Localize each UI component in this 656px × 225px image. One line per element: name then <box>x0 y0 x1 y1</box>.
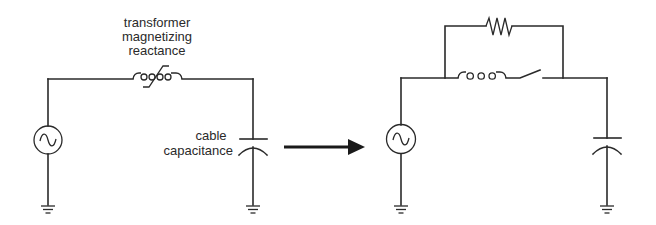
resistor-icon <box>486 18 512 35</box>
ground-icon <box>41 206 55 213</box>
wire-parallel-left <box>445 26 486 78</box>
ground-icon <box>246 206 260 213</box>
switch-icon <box>506 70 607 78</box>
capacitor-label-line2: capacitance <box>164 143 233 158</box>
inductor-icon <box>458 72 506 79</box>
capacitor-label-line1: cable <box>195 128 226 143</box>
ground-icon <box>600 206 614 213</box>
ground-icon <box>394 206 408 213</box>
circuit-diagram: transformer magnetizing reactance cable … <box>0 0 656 225</box>
inductor-label-line3: reactance <box>128 43 185 58</box>
left-circuit: transformer magnetizing reactance cable … <box>34 15 267 213</box>
nonlinear-inductor-icon <box>133 66 182 87</box>
ac-source-icon <box>387 125 416 154</box>
right-circuit <box>387 18 622 213</box>
ac-source-icon <box>34 126 62 154</box>
transition-arrow-icon <box>284 139 365 155</box>
inductor-label-line2: magnetizing <box>122 29 192 44</box>
inductor-label-line1: transformer <box>124 15 191 30</box>
